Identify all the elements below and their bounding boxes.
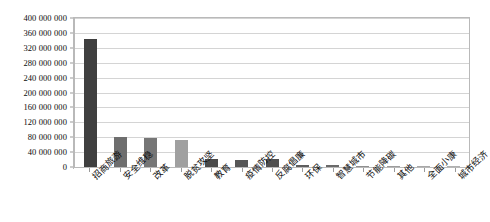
bar-slot [75, 18, 105, 167]
bar-slot [257, 18, 287, 167]
y-axis-tick-label: 40 000 000 [28, 147, 67, 157]
y-axis-tick-label: 120 000 000 [23, 117, 67, 127]
y-axis-tick-label: 320 000 000 [23, 43, 67, 53]
y-axis-tick-label: 360 000 000 [23, 28, 67, 38]
bar-slot [287, 18, 317, 167]
y-axis-tick-label: 400 000 000 [23, 13, 67, 23]
bar[interactable] [175, 140, 188, 167]
bar-slot [105, 18, 135, 167]
x-axis-label-slot: 其他 [379, 168, 409, 222]
bar[interactable] [326, 165, 339, 167]
x-axis-label-slot: 招商旅游 [74, 168, 104, 222]
y-axis-tick-label: 280 000 000 [23, 58, 67, 68]
bar[interactable] [84, 39, 97, 168]
plot-area [74, 17, 470, 168]
y-axis-tick-label: 240 000 000 [23, 73, 67, 83]
x-axis-label-slot: 脱贫攻坚 [165, 168, 195, 222]
bar[interactable] [447, 166, 460, 167]
bar-slot [439, 18, 469, 167]
x-axis-label-slot: 改革 [135, 168, 165, 222]
bar-slot [136, 18, 166, 167]
y-axis-tick-label: 0 [63, 162, 67, 172]
bar-slot [196, 18, 226, 167]
bar-slot [318, 18, 348, 167]
x-axis-label-slot: 环保 [287, 168, 317, 222]
bar-slot [408, 18, 438, 167]
x-axis-label-slot: 全面小康 [409, 168, 439, 222]
y-axis: 400 000 000360 000 000320 000 000280 000… [0, 17, 74, 168]
x-axis-labels: 招商旅游安全维稳改革脱贫攻坚教育疫情防控反腐倡廉环保智慧城市节能降碳其他全面小康… [74, 168, 470, 222]
bar-slot [166, 18, 196, 167]
bar-slot [378, 18, 408, 167]
bar-slot [227, 18, 257, 167]
bars-layer [75, 18, 469, 167]
y-axis-tick-label: 80 000 000 [28, 132, 67, 142]
x-axis-label-slot: 反腐倡廉 [257, 168, 287, 222]
bar[interactable] [235, 160, 248, 167]
x-axis-label-slot: 安全维稳 [104, 168, 134, 222]
x-axis-label-slot: 疫情防控 [226, 168, 256, 222]
x-axis-label-slot: 教育 [196, 168, 226, 222]
y-axis-tick-label: 160 000 000 [23, 102, 67, 112]
x-axis-label-slot: 城市经济 [440, 168, 470, 222]
x-axis-label-slot: 节能降碳 [348, 168, 378, 222]
x-axis-label-slot: 智慧城市 [318, 168, 348, 222]
y-axis-tick-label: 200 000 000 [23, 88, 67, 98]
bar[interactable] [387, 166, 400, 167]
bar-slot [348, 18, 378, 167]
